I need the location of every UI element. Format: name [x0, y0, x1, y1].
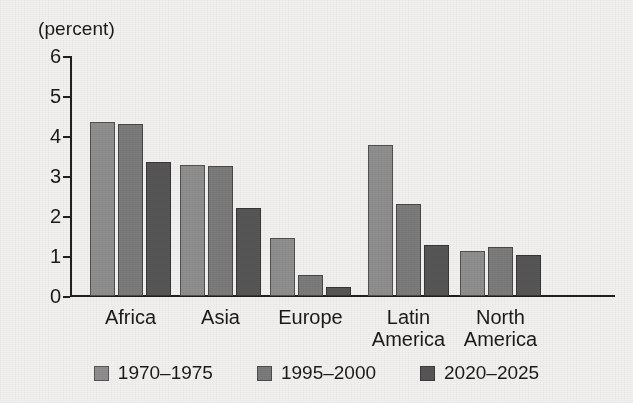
- bar-group-bars: [180, 56, 261, 296]
- chart-legend: 1970–19751995–20002020–2025: [0, 362, 633, 384]
- y-axis-tick-mark: [63, 96, 70, 98]
- bar: [460, 251, 485, 296]
- bar: [396, 204, 421, 296]
- legend-color-swatch: [94, 366, 109, 381]
- bar-group: [368, 56, 449, 296]
- plot-area: 0123456: [70, 56, 613, 296]
- bar: [424, 245, 449, 296]
- legend-color-swatch: [420, 366, 435, 381]
- y-axis-tick-label: 3: [50, 166, 61, 186]
- legend-item: 1970–1975: [94, 362, 213, 384]
- y-axis-tick-mark: [63, 56, 70, 58]
- bar: [180, 165, 205, 296]
- bar: [270, 238, 295, 296]
- bar: [488, 247, 513, 296]
- bar: [516, 255, 541, 296]
- bar: [298, 275, 323, 296]
- bar-group-bars: [90, 56, 171, 296]
- x-axis-category-label: North America: [440, 306, 561, 351]
- chart-page: (percent) 0123456 AfricaAsiaEuropeLatin …: [0, 0, 633, 403]
- bar: [326, 287, 351, 296]
- y-axis-tick-mark: [63, 216, 70, 218]
- legend-item: 2020–2025: [420, 362, 539, 384]
- y-axis-unit-label: (percent): [38, 18, 115, 40]
- bar: [146, 162, 171, 296]
- bar: [90, 122, 115, 296]
- bar-group: [180, 56, 261, 296]
- bar: [368, 145, 393, 296]
- y-axis-tick-mark: [63, 256, 70, 258]
- y-axis-tick-mark: [63, 136, 70, 138]
- y-axis-tick-label: 4: [50, 126, 61, 146]
- y-axis-tick-mark: [63, 176, 70, 178]
- bar: [208, 166, 233, 296]
- y-axis-tick-label: 0: [50, 286, 61, 306]
- bar: [118, 124, 143, 296]
- y-axis-tick-label: 1: [50, 246, 61, 266]
- y-axis-tick-mark: [63, 296, 70, 298]
- bar-group-bars: [270, 56, 351, 296]
- y-axis-tick-label: 5: [50, 86, 61, 106]
- legend-label: 1995–2000: [281, 362, 376, 384]
- bar-group: [90, 56, 171, 296]
- legend-item: 1995–2000: [257, 362, 376, 384]
- legend-color-swatch: [257, 366, 272, 381]
- bar: [236, 208, 261, 296]
- legend-label: 1970–1975: [118, 362, 213, 384]
- bar-group-bars: [460, 56, 541, 296]
- y-axis-tick-label: 6: [50, 46, 61, 66]
- bar-group: [460, 56, 541, 296]
- bar-group: [270, 56, 351, 296]
- bar-group-bars: [368, 56, 449, 296]
- y-axis-tick-label: 2: [50, 206, 61, 226]
- legend-label: 2020–2025: [444, 362, 539, 384]
